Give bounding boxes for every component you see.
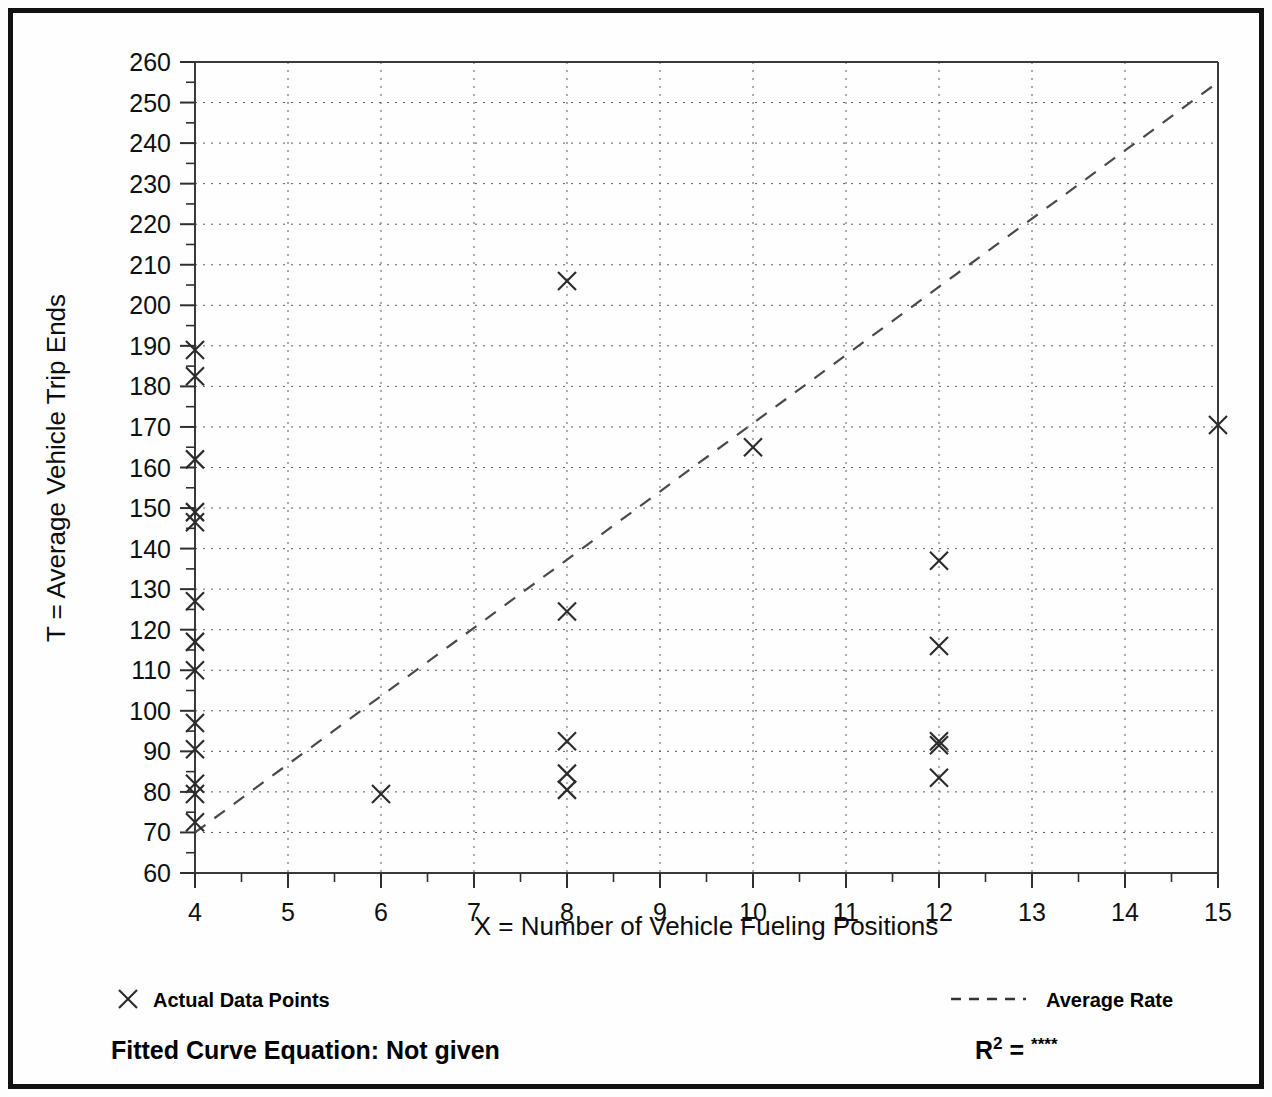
y-tick-label: 230 [129,170,171,198]
data-point-marker [558,602,576,620]
data-point-marker [930,769,948,787]
legend-average-rate-label: Average Rate [1046,989,1173,1011]
y-axis-tick-labels: 6070809010011012013014015016017018019020… [129,48,171,887]
vertical-gridlines [288,62,1125,873]
y-tick-label: 90 [143,737,171,765]
legend-data-points-label: Actual Data Points [153,989,330,1011]
r-squared-label: R2 = **** [975,1034,1058,1064]
y-tick-label: 170 [129,413,171,441]
chart-outer-frame: 6070809010011012013014015016017018019020… [8,8,1264,1089]
y-tick-label: 150 [129,494,171,522]
horizontal-gridlines [195,103,1218,833]
y-tick-label: 200 [129,291,171,319]
y-tick-label: 130 [129,575,171,603]
x-axis-title: X = Number of Vehicle Fueling Positions [474,911,939,941]
y-tick-label: 240 [129,129,171,157]
y-tick-label: 140 [129,535,171,563]
trend-line-segment [195,82,1218,832]
fitted-curve-equation: Fitted Curve Equation: Not given [111,1036,500,1064]
legend-x-icon [119,990,137,1008]
data-point-marker [744,438,762,456]
y-tick-label: 120 [129,616,171,644]
x-tick-label: 14 [1111,898,1139,926]
y-tick-label: 60 [143,859,171,887]
x-tick-label: 15 [1204,898,1232,926]
average-rate-trend-line [195,82,1218,832]
data-point-markers [186,272,1227,831]
r-squared-exponent: 2 [993,1034,1002,1053]
x-axis-ticks [195,873,1218,888]
legend-average-rate: Average Rate [951,989,1173,1011]
scatter-plot: 6070809010011012013014015016017018019020… [13,13,1259,1084]
y-tick-label: 80 [143,778,171,806]
x-tick-label: 13 [1018,898,1046,926]
r-squared-value: **** [1031,1035,1058,1054]
data-point-marker [372,785,390,803]
x-tick-label: 6 [374,898,388,926]
y-tick-label: 250 [129,89,171,117]
y-tick-label: 70 [143,818,171,846]
y-tick-label: 190 [129,332,171,360]
y-axis-title: T = Average Vehicle Trip Ends [41,294,71,642]
y-tick-label: 210 [129,251,171,279]
y-tick-label: 180 [129,372,171,400]
y-tick-label: 100 [129,697,171,725]
y-tick-label: 110 [131,656,171,684]
x-tick-label: 5 [281,898,295,926]
chart-page: 6070809010011012013014015016017018019020… [0,0,1272,1097]
x-tick-label: 4 [188,898,202,926]
y-tick-label: 260 [129,48,171,76]
y-tick-label: 160 [129,454,171,482]
r-squared-equals: = [1003,1036,1032,1064]
legend-data-points: Actual Data Points [119,989,330,1011]
r-squared-base: R [975,1036,993,1064]
y-tick-label: 220 [129,210,171,238]
